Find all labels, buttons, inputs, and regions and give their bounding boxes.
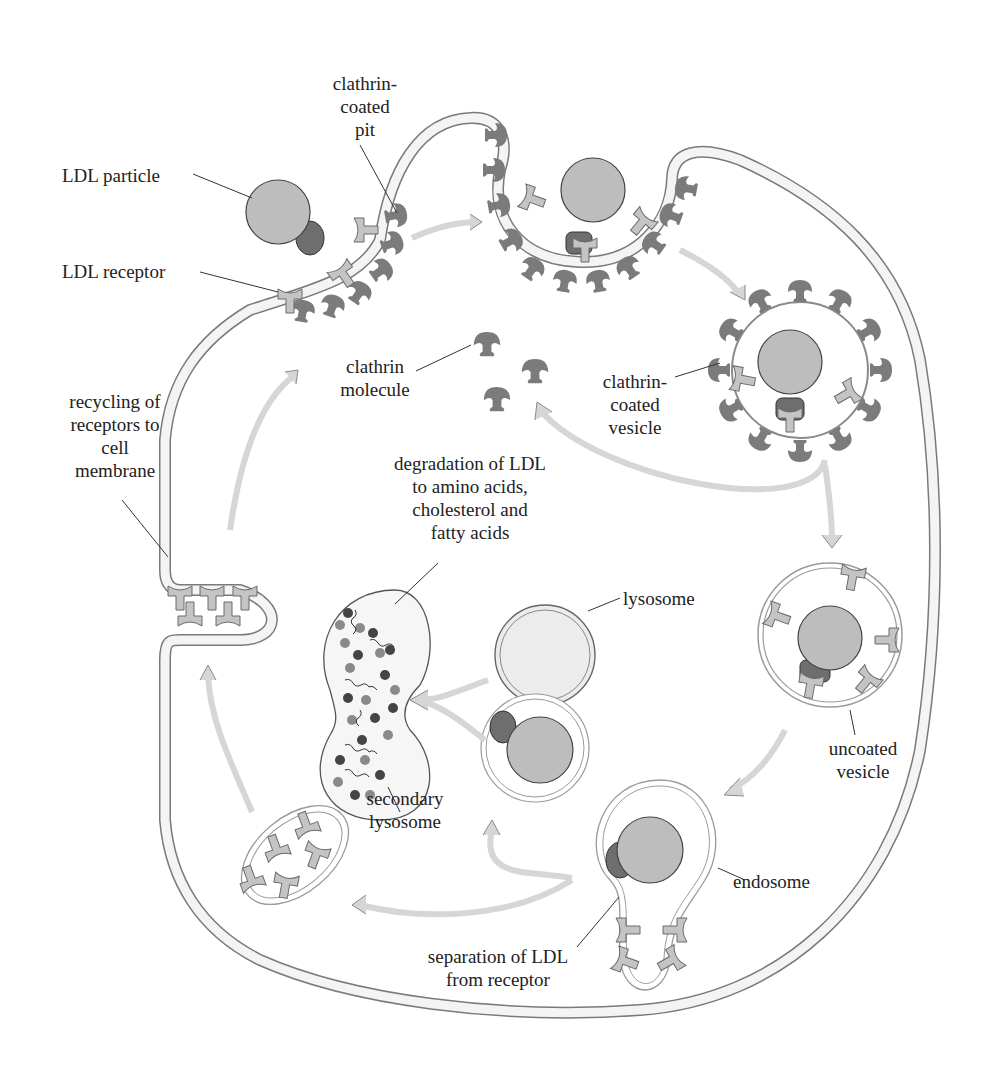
arrow-recycling-to-pit [230, 375, 295, 530]
label-uncoated-vesicle: uncoated vesicle [808, 737, 918, 783]
arrow-lysosome-to-secondary [418, 680, 488, 700]
ldl-particle-free [246, 180, 324, 255]
arrow-receptor-vesicle-to-membrane [208, 675, 252, 812]
clathrin-coated-vesicle [708, 280, 892, 462]
label-separation: separation of LDL from receptor [408, 945, 588, 991]
lysosome [495, 605, 595, 705]
label-degradation: degradation of LDL to amino acids, chole… [365, 452, 575, 544]
secondary-lysosome [320, 590, 430, 820]
label-secondary-lysosome: secondary lysosome [345, 787, 465, 833]
deep-coated-pit [483, 123, 699, 294]
label-clathrin-molecule: clathrin molecule [325, 355, 425, 401]
label-lysosome: lysosome [623, 587, 695, 610]
label-clathrin-coated-pit: clathrin- coated pit [315, 72, 415, 141]
arrow-ldl-vesicle-to-secondary [418, 700, 485, 740]
label-endosome: endosome [733, 870, 810, 893]
arrow-vesicle-to-uncoated [825, 465, 832, 540]
endosome [596, 780, 716, 990]
clathrin-molecules [474, 332, 548, 411]
arrow-pit-to-deep-pit [412, 222, 478, 238]
uncoated-vesicle [758, 563, 902, 707]
arrow-deep-pit-to-vesicle [680, 250, 740, 295]
arrow-endosome-to-receptor-vesicle [360, 880, 572, 914]
label-ldl-particle: LDL particle [62, 164, 160, 187]
label-clathrin-coated-vesicle: clathrin- coated vesicle [585, 370, 685, 439]
ldl-vesicle [481, 694, 589, 802]
recycled-receptors [168, 586, 257, 626]
label-ldl-receptor: LDL receptor [62, 260, 165, 283]
arrow-endosome-to-ldl-vesicle [490, 830, 572, 878]
label-recycling: recycling of receptors to cell membrane [55, 390, 175, 482]
